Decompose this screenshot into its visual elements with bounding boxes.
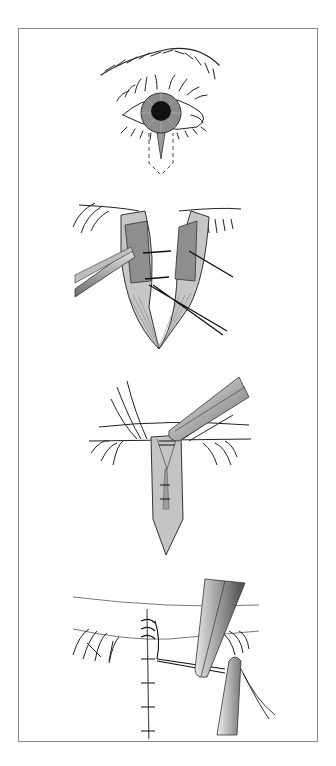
- panel-step-4: [19, 569, 319, 739]
- needle-holder: [169, 377, 249, 441]
- figure-frame: [18, 28, 318, 742]
- wedge-incision: [157, 133, 165, 159]
- pupil: [151, 101, 171, 121]
- panel-step-1: [19, 29, 319, 189]
- panel-step-3: [19, 369, 319, 559]
- incision-line: [147, 609, 149, 739]
- lid-split-illustration: [19, 197, 319, 357]
- suture-tying-illustration: [19, 569, 319, 739]
- wedge-closure-illustration: [19, 369, 319, 559]
- panel-step-2: [19, 197, 319, 357]
- eye-illustration: [19, 29, 319, 189]
